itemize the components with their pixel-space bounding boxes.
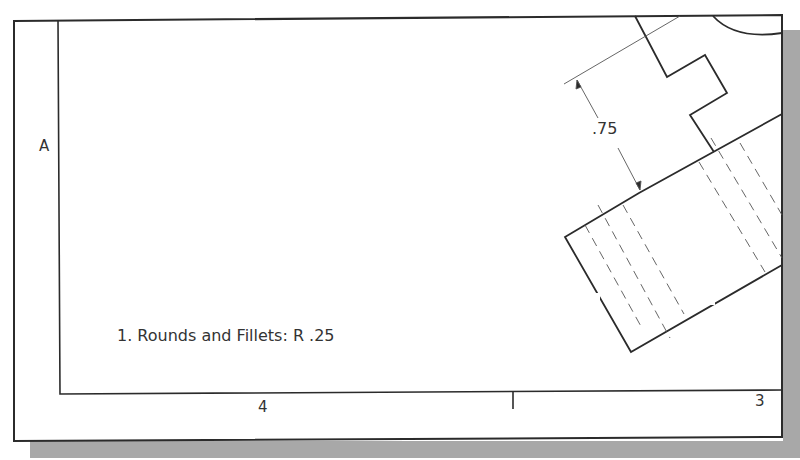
sheet-outer-border: [14, 15, 782, 441]
drawing-note: 1. Rounds and Fillets: R .25: [117, 326, 335, 345]
zone-label-row-a: A: [39, 137, 49, 155]
drawing-sheet: [0, 0, 800, 460]
dimension-value: .75: [592, 119, 617, 138]
zone-label-col-4: 4: [258, 398, 268, 416]
zone-label-col-3: 3: [755, 392, 765, 410]
